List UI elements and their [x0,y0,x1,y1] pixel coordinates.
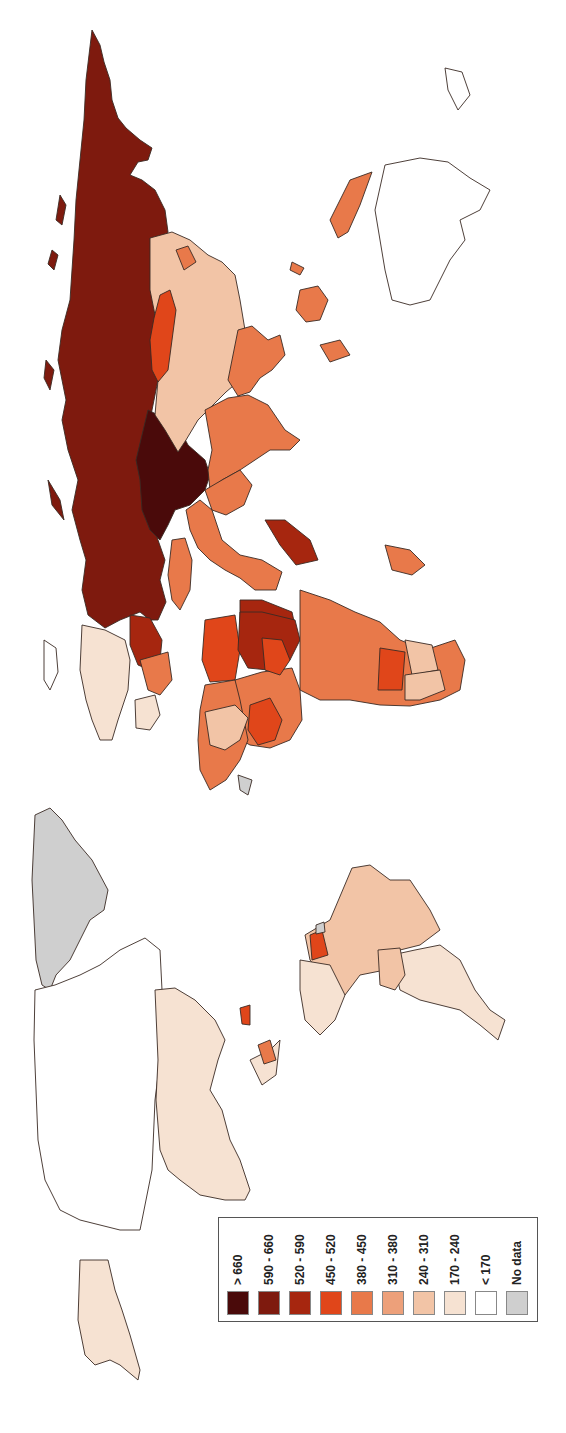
legend-label: 590 - 660 [262,1234,276,1285]
region-japan [330,172,372,238]
legend-label: No data [510,1241,524,1285]
legend-label: 170 - 240 [448,1234,462,1285]
legend-swatch [475,1291,497,1315]
region-usa [155,988,250,1200]
region-alaska [78,1260,140,1380]
region-madagascar [385,545,425,575]
region-australia [375,158,490,305]
region-middle-east [186,500,282,590]
map-legend: > 660 590 - 660 520 - 590 450 - 520 380 … [218,1217,538,1322]
legend-item-590-660: 590 - 660 [256,1218,284,1323]
legend-label: 380 - 450 [355,1234,369,1285]
legend-label: > 660 [231,1255,245,1285]
region-ethiopia [378,648,405,690]
legend-swatch [351,1291,373,1315]
legend-swatch [227,1291,249,1315]
legend-item-gt660: > 660 [225,1218,253,1323]
region-russia [58,30,168,628]
legend-item-380-450: 380 - 450 [349,1218,377,1323]
region-south-africa-nodata [238,775,252,795]
legend-swatch [320,1291,342,1315]
region-south-america-south [392,945,505,1040]
legend-swatch [289,1291,311,1315]
region-guiana-nodata [316,922,325,934]
legend-item-170-240: 170 - 240 [442,1218,470,1323]
legend-label: 520 - 590 [293,1234,307,1285]
region-iberia [135,695,160,730]
legend-label: < 170 [479,1255,493,1285]
legend-swatch [382,1291,404,1315]
region-north-africa [202,615,240,682]
legend-swatch [444,1291,466,1315]
region-western-europe [80,625,130,740]
legend-swatch [413,1291,435,1315]
legend-item-lt170: < 170 [473,1218,501,1323]
legend-label: 450 - 520 [324,1234,338,1285]
region-balkans [140,652,172,695]
region-greenland [32,808,108,990]
legend-item-240-310: 240 - 310 [411,1218,439,1323]
legend-item-310-380: 310 - 380 [380,1218,408,1323]
legend-item-520-590: 520 - 590 [287,1218,315,1323]
region-new-zealand [445,68,470,110]
region-indonesia [290,262,350,362]
region-saudi [265,520,318,565]
legend-label: 240 - 310 [417,1234,431,1285]
region-uk [44,640,58,690]
region-turkey [168,538,192,610]
region-india [205,395,300,490]
legend-label: 310 - 380 [386,1234,400,1285]
legend-swatch [258,1291,280,1315]
region-cuba [240,1005,250,1025]
legend-item-450-520: 450 - 520 [318,1218,346,1323]
region-southeast-asia [228,326,285,396]
legend-swatch [506,1291,528,1315]
legend-item-no-data: No data [504,1218,532,1323]
